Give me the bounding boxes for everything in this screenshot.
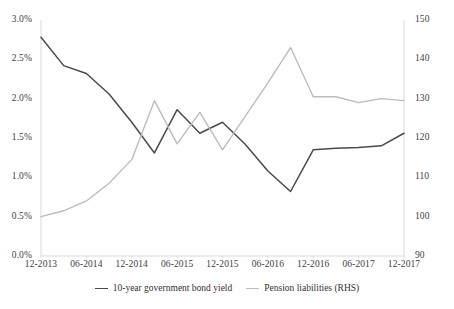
series-line-bond-yield (41, 37, 404, 191)
left-axis-tick-label: 3.0% (2, 14, 32, 24)
x-axis-tick-label: 06-2017 (333, 259, 385, 269)
x-axis-tick-label: 12-2017 (378, 259, 430, 269)
legend-item[interactable]: 10-year government bond yield (95, 283, 233, 293)
left-axis-tick-label: 1.5% (2, 132, 32, 142)
right-axis-tick-label: 110 (415, 171, 441, 181)
x-axis-tick-label: 06-2016 (242, 259, 294, 269)
series-line-pension-liabilities (41, 48, 404, 217)
right-axis-tick-label: 100 (415, 211, 441, 221)
right-axis-tick-label: 140 (415, 53, 441, 63)
right-axis-tick-label: 130 (415, 93, 441, 103)
left-axis-tick-label: 2.5% (2, 53, 32, 63)
chart-legend: 10-year government bond yieldPension lia… (0, 283, 454, 293)
left-axis-tick-label: 1.0% (2, 171, 32, 181)
right-axis-tick-label: 120 (415, 132, 441, 142)
legend-label: Pension liabilities (RHS) (264, 283, 359, 293)
left-axis-tick-label: 2.0% (2, 93, 32, 103)
x-axis-tick-label: 12-2014 (106, 259, 158, 269)
legend-label: 10-year government bond yield (113, 283, 233, 293)
right-axis-tick-label: 150 (415, 14, 441, 24)
legend-line-swatch (246, 288, 259, 289)
x-axis-tick-label: 06-2015 (151, 259, 203, 269)
chart-container: 0.0%0.5%1.0%1.5%2.0%2.5%3.0% 90100110120… (0, 0, 454, 309)
legend-item[interactable]: Pension liabilities (RHS) (246, 283, 359, 293)
x-axis-tick-label: 12-2015 (197, 259, 249, 269)
x-axis-tick-label: 12-2013 (15, 259, 67, 269)
left-axis-tick-label: 0.5% (2, 211, 32, 221)
legend-line-swatch (95, 288, 108, 289)
x-axis-tick-label: 06-2014 (60, 259, 112, 269)
x-axis-tick-label: 12-2016 (287, 259, 339, 269)
